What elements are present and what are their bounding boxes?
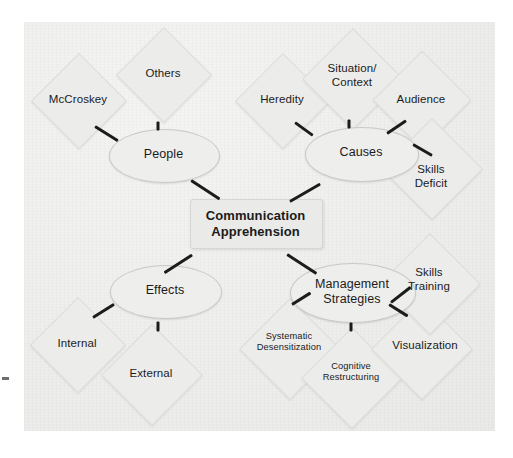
- link-others-people: [157, 122, 160, 131]
- diagram-shapes: People Causes Effects Management Strateg…: [0, 0, 513, 458]
- link-center-management-strategies: [286, 253, 317, 275]
- diamond-mccroskey: [31, 53, 127, 149]
- mind-map-diagram: People Causes Effects Management Strateg…: [0, 0, 513, 458]
- link-people-center: [190, 179, 220, 200]
- link-external-effects: [157, 322, 160, 332]
- link-mccroskey-people: [94, 125, 118, 142]
- link-internal-effects: [92, 303, 115, 319]
- ellipse-causes: [305, 127, 419, 182]
- center-node-box: [190, 199, 323, 249]
- link-situation-context-causes: [348, 120, 351, 129]
- link-cognitive-restructuring-management: [350, 323, 353, 332]
- diamond-others: [116, 27, 212, 123]
- ellipse-people: [109, 129, 220, 183]
